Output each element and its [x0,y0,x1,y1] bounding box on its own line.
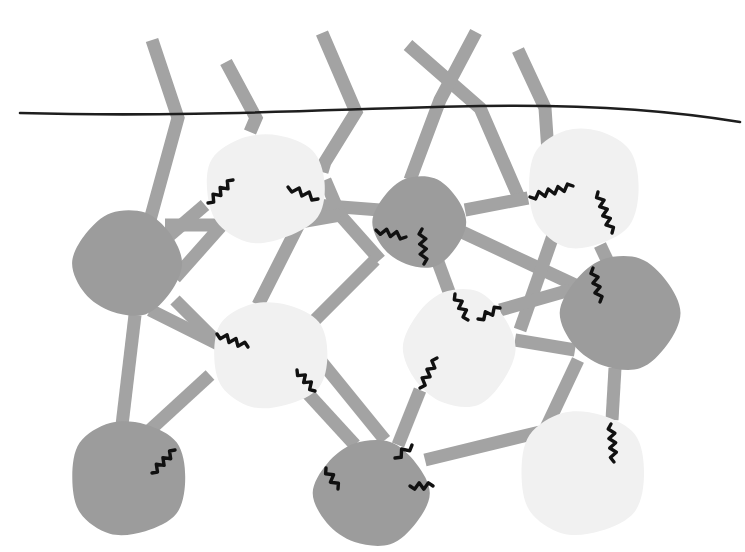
light-node-L3 [214,302,327,408]
light-node-L5 [522,411,645,535]
rod-d3-l5a [612,368,615,420]
light-node-L2 [529,128,639,248]
dark-node-D4 [72,421,185,535]
cell-wall-network-diagram [0,0,745,552]
rod-l1-d2a [315,205,380,210]
